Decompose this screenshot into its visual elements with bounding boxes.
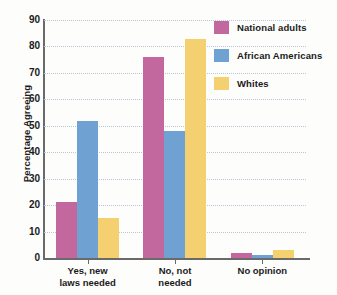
y-axis-tick-label: 90 [6,15,40,25]
legend-item: Whites [214,72,322,94]
legend-label: Whites [237,78,269,89]
legend-swatch [214,77,229,90]
y-axis-tick-label: 60 [6,94,40,104]
legend-swatch [214,21,229,34]
bar [164,131,185,258]
x-axis-line [44,258,310,260]
y-axis-tick-label: 0 [6,253,40,263]
legend-swatch [214,49,229,62]
bar-chart: Percentage Agreeing 9080706050403020100 … [0,0,337,295]
bar [56,202,77,258]
x-axis-tick [88,258,89,264]
y-axis-tick-label: 50 [6,121,40,131]
y-axis-tick-label: 40 [6,147,40,157]
legend-label: National adults [237,22,307,33]
legend-item: African Americans [214,44,322,66]
x-axis-category-label: No, notneeded [125,265,225,288]
x-axis-tick [262,258,263,264]
x-axis-tick [175,258,176,264]
bar [231,253,252,258]
bar-group [131,20,218,258]
bar [185,39,206,258]
y-axis-tick-labels: 9080706050403020100 [0,0,40,295]
bar [143,57,164,258]
legend-item: National adults [214,16,322,38]
bar-group [44,20,131,258]
x-axis-category-label: No opinion [212,265,312,277]
bar [77,121,98,259]
y-axis-tick-label: 10 [6,227,40,237]
y-axis-tick-label: 80 [6,41,40,51]
bar [273,250,294,258]
bar [98,218,119,258]
y-axis-tick-label: 70 [6,68,40,78]
chart-legend: National adultsAfrican AmericansWhites [214,16,322,100]
legend-label: African Americans [237,50,322,61]
y-axis-tick-label: 20 [6,200,40,210]
y-axis-tick-label: 30 [6,174,40,184]
x-axis-category-label: Yes, newlaws needed [38,265,138,288]
